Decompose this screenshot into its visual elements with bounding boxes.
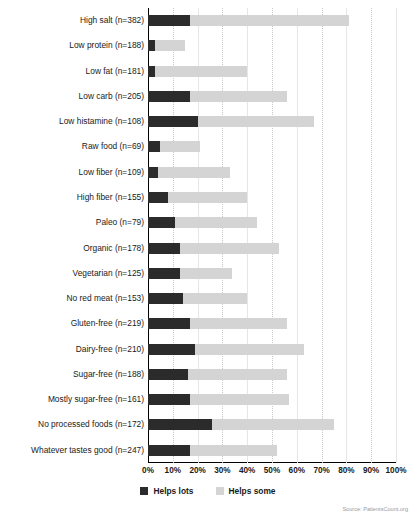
stacked-bar [148,141,200,152]
legend-item: Helps lots [140,486,193,496]
bar-segment-helps-some [212,419,334,430]
category-label: High salt (n=382) [0,15,144,26]
bar-segment-helps-some [190,15,349,26]
x-tick-label: 60% [289,466,305,475]
x-tick-label: 20% [189,466,205,475]
chart-legend: Helps lotsHelps some [0,486,416,496]
stacked-bar [148,394,289,405]
category-label: Vegetarian (n=125) [0,268,144,279]
legend-label: Helps lots [153,486,193,496]
category-label: Low fat (n=181) [0,66,144,77]
stacked-bar [148,419,334,430]
bar-segment-helps-lots [148,167,158,178]
category-label: No processed foods (n=172) [0,419,144,430]
bar-segment-helps-lots [148,217,175,228]
x-tick-label: 70% [313,466,329,475]
x-tick-label: 0% [142,466,154,475]
bar-rows [148,8,396,463]
legend-swatch-dark [140,487,148,495]
bar-segment-helps-lots [148,445,190,456]
bar-segment-helps-lots [148,419,212,430]
x-tick-label: 40% [239,466,255,475]
legend-swatch-light [216,487,224,495]
bar-segment-helps-some [198,116,315,127]
category-label: Low histamine (n=108) [0,116,144,127]
stacked-bar [148,66,247,77]
stacked-bar [148,369,287,380]
bar-segment-helps-some [190,318,287,329]
bar-segment-helps-some [188,369,287,380]
category-label: Paleo (n=79) [0,217,144,228]
x-tick-label: 90% [363,466,379,475]
bar-segment-helps-lots [148,369,188,380]
category-label: Low carb (n=205) [0,91,144,102]
plot-area [148,8,396,463]
stacked-bar [148,445,277,456]
bar-segment-helps-some [183,293,247,304]
bar-segment-helps-lots [148,394,190,405]
gridline [396,8,398,463]
stacked-bar [148,217,257,228]
bar-segment-helps-lots [148,293,183,304]
category-label: High fiber (n=155) [0,192,144,203]
bar-segment-helps-some [190,91,287,102]
source-attribution: Source: PatientsCount.org [342,506,408,512]
bar-segment-helps-some [180,243,279,254]
legend-item: Helps some [216,486,276,496]
x-tick-label: 50% [264,466,280,475]
bar-segment-helps-some [155,66,247,77]
bar-segment-helps-some [160,141,200,152]
stacked-bar [148,268,232,279]
category-label: Gluten-free (n=219) [0,318,144,329]
bar-segment-helps-lots [148,268,180,279]
stacked-bar [148,192,247,203]
bar-segment-helps-lots [148,66,155,77]
x-tick-label: 30% [214,466,230,475]
x-tick-label: 80% [338,466,354,475]
stacked-bar [148,344,304,355]
stacked-bar [148,167,230,178]
category-label: Sugar-free (n=188) [0,369,144,380]
bar-segment-helps-lots [148,344,195,355]
diet-helpfulness-stacked-bar-chart: High salt (n=382)Low protein (n=188)Low … [0,0,416,523]
bar-segment-helps-some [190,394,289,405]
stacked-bar [148,116,314,127]
category-label: Mostly sugar-free (n=161) [0,394,144,405]
bar-segment-helps-some [168,192,247,203]
bar-segment-helps-some [175,217,257,228]
category-label: Organic (n=178) [0,243,144,254]
stacked-bar [148,318,287,329]
stacked-bar [148,293,247,304]
category-axis-labels: High salt (n=382)Low protein (n=188)Low … [0,8,144,463]
stacked-bar [148,15,349,26]
bar-segment-helps-lots [148,141,160,152]
stacked-bar [148,91,287,102]
bar-segment-helps-lots [148,243,180,254]
x-tick-label: 10% [165,466,181,475]
bar-segment-helps-lots [148,40,155,51]
bar-segment-helps-lots [148,116,198,127]
bar-segment-helps-lots [148,192,168,203]
stacked-bar [148,243,279,254]
bar-segment-helps-some [195,344,304,355]
stacked-bar [148,40,185,51]
category-label: No red meat (n=153) [0,293,144,304]
bar-segment-helps-lots [148,15,190,26]
bar-segment-helps-some [158,167,230,178]
category-label: Whatever tastes good (n=247) [0,445,144,456]
bar-segment-helps-lots [148,91,190,102]
category-label: Low protein (n=188) [0,40,144,51]
bar-segment-helps-some [190,445,277,456]
x-axis-tick-labels: 0%10%20%30%40%50%60%70%80%90%100% [148,466,396,480]
category-label: Low fiber (n=109) [0,167,144,178]
bar-segment-helps-some [155,40,185,51]
category-label: Dairy-free (n=210) [0,344,144,355]
legend-label: Helps some [229,486,276,496]
bar-segment-helps-some [180,268,232,279]
x-tick-label: 100% [386,466,407,475]
category-label: Raw food (n=69) [0,141,144,152]
bar-segment-helps-lots [148,318,190,329]
